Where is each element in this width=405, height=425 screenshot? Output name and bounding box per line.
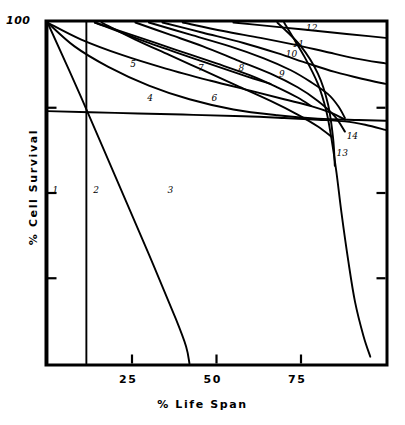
curve-label-6: 6	[211, 93, 217, 103]
curve-label-1: 1	[53, 185, 59, 195]
curve-label-14: 14	[347, 131, 358, 141]
xtick-label-25: 25	[119, 373, 137, 386]
ytick-label-100: 100	[6, 14, 30, 27]
curve-label-12: 12	[306, 23, 317, 33]
curve-label-4: 4	[147, 93, 153, 103]
stroke-tail-6b	[277, 23, 334, 166]
x-axis-title: % Life Span	[0, 398, 405, 411]
xtick-label-50: 50	[204, 373, 222, 386]
curve-label-9: 9	[279, 69, 285, 79]
curve-label-7: 7	[198, 63, 204, 73]
cell-survival-figure: 100 % Life Span % Cell Survival 255075 1…	[0, 0, 405, 425]
curve-label-5: 5	[130, 59, 136, 69]
curve-label-2: 2	[93, 185, 99, 195]
y-axis-title: % Cell Survival	[27, 129, 40, 245]
axis-ticks	[48, 108, 386, 364]
curve-label-3: 3	[167, 185, 173, 195]
y-axis-title-wrapper: % Cell Survival	[23, 77, 41, 297]
curve-label-8: 8	[238, 63, 244, 73]
curve-label-10: 10	[286, 49, 297, 59]
curve-label-13: 13	[336, 148, 347, 158]
xtick-label-75: 75	[288, 373, 306, 386]
curve-label-11: 11	[293, 39, 304, 49]
